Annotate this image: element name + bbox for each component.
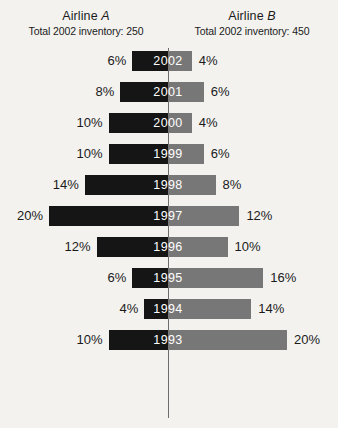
percent-label-airline-a: 14% — [53, 175, 79, 195]
percent-label-airline-a: 10% — [76, 330, 102, 350]
chart-root: Airline A Total 2002 inventory: 250 Airl… — [0, 0, 338, 428]
bar-row: 10%6%1999 — [0, 144, 338, 164]
percent-label-airline-b: 14% — [258, 299, 284, 319]
year-label: 1996 — [138, 237, 198, 257]
year-label: 2001 — [138, 82, 198, 102]
year-label: 1995 — [138, 268, 198, 288]
percent-label-airline-b: 4% — [199, 113, 218, 133]
year-label: 2000 — [138, 113, 198, 133]
bar-row: 14%8%1998 — [0, 175, 338, 195]
percent-label-airline-a: 8% — [96, 82, 115, 102]
percent-label-airline-a: 4% — [119, 299, 138, 319]
header-column-airline-b: Airline B Total 2002 inventory: 450 — [169, 8, 335, 38]
percent-label-airline-b: 8% — [223, 175, 242, 195]
bar-row: 20%12%1997 — [0, 206, 338, 226]
airline-b-title-prefix: Airline — [228, 9, 267, 23]
bar-row: 10%4%2000 — [0, 113, 338, 133]
year-label: 1999 — [138, 144, 198, 164]
airline-a-title: Airline A — [3, 8, 169, 24]
center-axis-line — [168, 48, 169, 418]
year-label: 2002 — [138, 51, 198, 71]
year-label: 1998 — [138, 175, 198, 195]
airline-b-subtitle: Total 2002 inventory: 450 — [169, 25, 335, 38]
header-column-airline-a: Airline A Total 2002 inventory: 250 — [3, 8, 169, 38]
airline-a-title-letter: A — [101, 9, 109, 23]
percent-label-airline-b: 16% — [270, 268, 296, 288]
airline-a-subtitle: Total 2002 inventory: 250 — [3, 25, 169, 38]
bar-row: 10%20%1993 — [0, 330, 338, 350]
bar-row: 8%6%2001 — [0, 82, 338, 102]
bar-row: 6%4%2002 — [0, 51, 338, 71]
airline-b-title: Airline B — [169, 8, 335, 24]
percent-label-airline-a: 10% — [76, 144, 102, 164]
percent-label-airline-b: 6% — [211, 82, 230, 102]
year-label: 1993 — [138, 330, 198, 350]
chart-header: Airline A Total 2002 inventory: 250 Airl… — [0, 8, 338, 42]
percent-label-airline-a: 12% — [65, 237, 91, 257]
year-label: 1997 — [138, 206, 198, 226]
airline-a-title-prefix: Airline — [62, 9, 101, 23]
percent-label-airline-b: 6% — [211, 144, 230, 164]
bar-row: 4%14%1994 — [0, 299, 338, 319]
year-label: 1994 — [138, 299, 198, 319]
percent-label-airline-b: 4% — [199, 51, 218, 71]
percent-label-airline-a: 6% — [108, 51, 127, 71]
percent-label-airline-a: 10% — [76, 113, 102, 133]
percent-label-airline-a: 6% — [108, 268, 127, 288]
percent-label-airline-b: 12% — [246, 206, 272, 226]
percent-label-airline-b: 10% — [235, 237, 261, 257]
percent-label-airline-b: 20% — [294, 330, 320, 350]
chart-plot-area: 6%4%20028%6%200110%4%200010%6%199914%8%1… — [0, 48, 338, 423]
bar-row: 6%16%1995 — [0, 268, 338, 288]
airline-b-title-letter: B — [267, 9, 275, 23]
percent-label-airline-a: 20% — [17, 206, 43, 226]
bar-row: 12%10%1996 — [0, 237, 338, 257]
